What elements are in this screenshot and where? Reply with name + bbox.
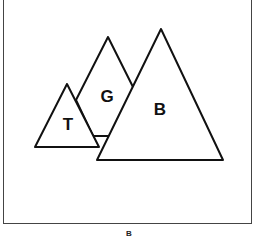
label-b: B (154, 100, 166, 119)
label-t: T (63, 115, 74, 134)
figure-caption: B (0, 229, 258, 238)
label-g: G (100, 87, 113, 106)
triangles-diagram: G T B (0, 0, 258, 241)
